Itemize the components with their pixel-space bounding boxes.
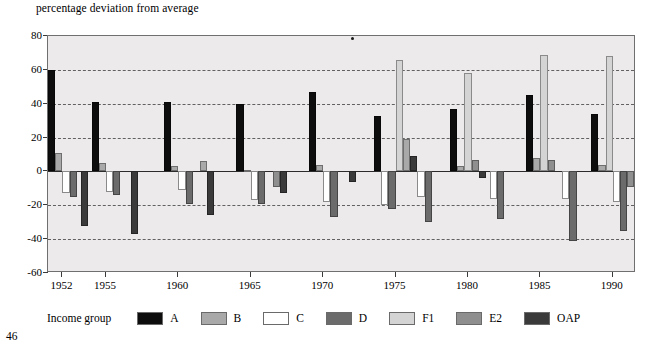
y-tick-label: 40 bbox=[8, 98, 42, 109]
x-tick-mark bbox=[105, 272, 106, 277]
bar-e2-1967 bbox=[273, 171, 280, 186]
legend-item-c[interactable]: C bbox=[263, 312, 304, 325]
x-tick-mark bbox=[177, 272, 178, 277]
page-number: 46 bbox=[6, 330, 18, 342]
bar-d-1977 bbox=[425, 171, 432, 222]
bar-b-1990 bbox=[598, 165, 605, 172]
bar-b-1955 bbox=[99, 163, 106, 171]
legend-label: F1 bbox=[422, 312, 434, 324]
bar-c-1977 bbox=[417, 171, 424, 196]
bar-b-1975 bbox=[403, 139, 410, 171]
bar-c-1965 bbox=[251, 171, 258, 200]
y-tick-label: -20 bbox=[8, 199, 42, 210]
bar-e2-1980 bbox=[472, 160, 479, 172]
bar-d-1952 bbox=[70, 171, 77, 196]
gridline bbox=[48, 239, 634, 240]
x-tick-label: 1960 bbox=[166, 280, 188, 291]
legend-swatch-b-icon bbox=[201, 312, 227, 325]
chart-legend: Income group ABCDF1E2OAP bbox=[47, 306, 635, 330]
legend-item-e2[interactable]: E2 bbox=[456, 312, 502, 325]
bar-f1-1975 bbox=[396, 60, 403, 172]
bar-b-1980 bbox=[457, 166, 464, 171]
x-tick-label: 1955 bbox=[94, 280, 116, 291]
bar-d-1987 bbox=[569, 171, 576, 240]
bar-e2-1985 bbox=[548, 160, 555, 172]
bar-f1-1990 bbox=[606, 56, 613, 171]
plot-inner bbox=[48, 36, 634, 271]
bar-c-1960 bbox=[178, 171, 185, 190]
bar-c-1990 bbox=[613, 171, 620, 201]
bar-e2-1990 bbox=[627, 171, 634, 186]
bar-c-1982 bbox=[490, 171, 497, 198]
bar-f1-1980 bbox=[464, 73, 471, 171]
bar-c-1975 bbox=[381, 171, 388, 205]
y-tick-label: 80 bbox=[8, 30, 42, 41]
bar-c-1987 bbox=[562, 171, 569, 198]
legend-label: D bbox=[359, 312, 367, 324]
x-tick-label: 1975 bbox=[384, 280, 406, 291]
y-tick-label: 20 bbox=[8, 132, 42, 143]
bar-a-1975 bbox=[374, 116, 381, 172]
bar-d-1975 bbox=[388, 171, 395, 208]
bar-d-1970 bbox=[330, 171, 337, 217]
bar-oap-1957 bbox=[131, 171, 138, 234]
legend-label: C bbox=[296, 312, 304, 324]
legend-item-oap[interactable]: OAP bbox=[524, 312, 580, 325]
y-tick-label: -60 bbox=[8, 267, 42, 278]
bar-f1-1985 bbox=[540, 55, 547, 172]
x-tick-mark bbox=[250, 272, 251, 277]
bar-a-1955 bbox=[92, 102, 99, 171]
x-tick-mark bbox=[467, 272, 468, 277]
chart-page: percentage deviation from average 806040… bbox=[0, 0, 645, 351]
bar-c-1955 bbox=[106, 171, 113, 191]
legend-item-a[interactable]: A bbox=[137, 312, 178, 325]
bar-b-1985 bbox=[533, 158, 540, 172]
bar-oap-1980 bbox=[479, 171, 486, 178]
bar-c-1970 bbox=[323, 171, 330, 201]
y-tick-label: -40 bbox=[8, 233, 42, 244]
legend-item-b[interactable]: B bbox=[201, 312, 242, 325]
y-tick-label: 60 bbox=[8, 64, 42, 75]
legend-item-f1[interactable]: F1 bbox=[389, 312, 434, 325]
bar-d-1960 bbox=[186, 171, 193, 203]
legend-label: A bbox=[170, 312, 178, 324]
y-axis-title: percentage deviation from average bbox=[36, 2, 199, 14]
x-tick-mark bbox=[395, 272, 396, 277]
legend-item-d[interactable]: D bbox=[326, 312, 367, 325]
bar-oap-1953 bbox=[81, 171, 88, 225]
legend-items: ABCDF1E2OAP bbox=[137, 312, 602, 325]
legend-swatch-c-icon bbox=[263, 312, 289, 325]
bar-oap-1975 bbox=[410, 156, 417, 171]
bar-d-1955 bbox=[113, 171, 120, 195]
bar-a-1960 bbox=[164, 102, 171, 171]
bar-d-1990 bbox=[620, 171, 627, 230]
legend-swatch-f1-icon bbox=[389, 312, 415, 325]
bar-b-1952 bbox=[55, 153, 62, 172]
x-tick-label: 1952 bbox=[50, 280, 72, 291]
bar-oap-1967 bbox=[280, 171, 287, 193]
bar-c-1952 bbox=[62, 171, 69, 193]
bar-a-1985 bbox=[526, 95, 533, 171]
scan-artifact-speck bbox=[351, 37, 354, 40]
bar-a-1970 bbox=[309, 92, 316, 172]
x-tick-label: 1985 bbox=[528, 280, 550, 291]
bar-b-1970 bbox=[316, 165, 323, 172]
bar-a-1952 bbox=[48, 70, 55, 172]
x-tick-label: 1980 bbox=[456, 280, 478, 291]
legend-swatch-a-icon bbox=[137, 312, 163, 325]
x-tick-mark bbox=[612, 272, 613, 277]
bar-a-1980 bbox=[450, 109, 457, 172]
legend-swatch-oap-icon bbox=[524, 312, 550, 325]
bar-d-1982 bbox=[497, 171, 504, 218]
bar-b-1962 bbox=[200, 161, 207, 171]
y-tick-mark bbox=[43, 272, 48, 273]
x-tick-mark bbox=[322, 272, 323, 277]
legend-title: Income group bbox=[47, 312, 111, 324]
legend-label: B bbox=[234, 312, 242, 324]
x-tick-mark bbox=[61, 272, 62, 277]
bar-oap-1962 bbox=[207, 171, 214, 215]
x-tick-mark bbox=[539, 272, 540, 277]
bar-b-1965 bbox=[244, 170, 251, 172]
bar-a-1965 bbox=[236, 104, 243, 172]
legend-label: E2 bbox=[489, 312, 502, 324]
